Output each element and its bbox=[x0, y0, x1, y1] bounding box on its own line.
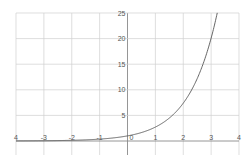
exp-curve bbox=[16, 13, 217, 141]
x-tick-label: 2 bbox=[181, 134, 185, 141]
x-tick-label: -3 bbox=[41, 134, 47, 141]
x-tick-label: -1 bbox=[97, 134, 103, 141]
x-tick-label: 4 bbox=[14, 134, 18, 141]
grid-lines bbox=[16, 13, 239, 155]
y-tick-label: 15 bbox=[118, 61, 126, 68]
exponential-plot: 4-3-2-101234 510152025 bbox=[0, 0, 249, 161]
x-tick-label: 1 bbox=[153, 134, 157, 141]
x-tick-label: 4 bbox=[237, 134, 241, 141]
y-tick-labels: 510152025 bbox=[118, 10, 126, 119]
x-tick-label: 0 bbox=[130, 134, 134, 141]
x-tick-label: 3 bbox=[209, 134, 213, 141]
y-tick-label: 5 bbox=[122, 112, 126, 119]
y-tick-label: 10 bbox=[118, 86, 126, 93]
y-tick-label: 25 bbox=[118, 10, 126, 17]
y-tick-label: 20 bbox=[118, 35, 126, 42]
x-tick-label: -2 bbox=[69, 134, 75, 141]
